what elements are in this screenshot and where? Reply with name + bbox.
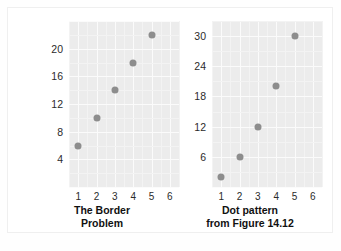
gridline-vertical — [295, 21, 296, 187]
gridline-horizontal — [69, 21, 179, 22]
data-point — [236, 153, 243, 160]
x-axis-tick-label: 2 — [94, 191, 100, 202]
gridline-vertical — [240, 21, 241, 187]
gridline-vertical — [249, 21, 250, 187]
y-axis-tick-label: 24 — [194, 60, 206, 72]
figure-border: 48121620123456 The Border Problem 612182… — [7, 7, 333, 233]
data-point — [148, 31, 155, 38]
data-point — [218, 173, 225, 180]
gridline-vertical — [267, 21, 268, 187]
gridline-horizontal — [212, 21, 322, 22]
gridline-horizontal — [212, 112, 322, 113]
gridline-horizontal — [212, 187, 322, 188]
chart-panel-dot-pattern: 612182430123456 Dot pattern from Figure … — [170, 8, 330, 234]
x-axis-tick-label: 4 — [273, 191, 279, 202]
x-axis-tick-label: 6 — [310, 191, 316, 202]
y-axis-tick-label: 6 — [200, 151, 206, 163]
gridline-horizontal — [212, 66, 322, 67]
gridline-vertical — [258, 21, 259, 187]
gridline-horizontal — [69, 49, 179, 50]
caption-line-1: The Border — [22, 204, 182, 217]
gridline-vertical — [285, 21, 286, 187]
gridline-horizontal — [212, 142, 322, 143]
gridline-horizontal — [69, 118, 179, 119]
data-point — [130, 59, 137, 66]
x-axis-tick-label: 1 — [75, 191, 81, 202]
gridline-horizontal — [69, 159, 179, 160]
data-point — [254, 123, 261, 130]
y-axis-tick-label: 4 — [57, 153, 63, 165]
gridline-vertical — [212, 21, 213, 187]
y-axis-tick-label: 12 — [51, 98, 63, 110]
y-axis-tick-label: 8 — [57, 126, 63, 138]
x-axis-tick-label: 3 — [112, 191, 118, 202]
gridline-horizontal — [69, 35, 179, 36]
gridline-horizontal — [69, 187, 179, 188]
gridline-vertical — [304, 21, 305, 187]
gridline-horizontal — [212, 36, 322, 37]
x-axis-tick-label: 1 — [218, 191, 224, 202]
gridline-horizontal — [69, 146, 179, 147]
gridline-horizontal — [69, 90, 179, 91]
y-axis-tick-label: 12 — [194, 121, 206, 133]
data-point — [291, 33, 298, 40]
data-point — [273, 83, 280, 90]
gridline-vertical — [276, 21, 277, 187]
gridline-horizontal — [212, 157, 322, 158]
y-axis-tick-label: 30 — [194, 30, 206, 42]
gridline-vertical — [230, 21, 231, 187]
chart-caption-dot-pattern: Dot pattern from Figure 14.12 — [170, 204, 330, 230]
data-point — [111, 87, 118, 94]
chart-caption-border-problem: The Border Problem — [22, 204, 182, 230]
gridline-horizontal — [212, 96, 322, 97]
figure-root: 48121620123456 The Border Problem 612182… — [0, 0, 341, 251]
gridline-horizontal — [69, 104, 179, 105]
data-point — [75, 142, 82, 149]
caption-line-2: Problem — [22, 217, 182, 230]
y-axis-tick-label: 18 — [194, 90, 206, 102]
gridline-horizontal — [212, 127, 322, 128]
gridline-horizontal — [212, 81, 322, 82]
x-axis-tick-label: 5 — [292, 191, 298, 202]
chart-panel-border-problem: 48121620123456 The Border Problem — [22, 8, 182, 234]
gridline-horizontal — [69, 76, 179, 77]
gridline-vertical — [322, 21, 323, 187]
y-axis-tick-label: 16 — [51, 70, 63, 82]
plot-area-border-problem: 48121620123456 — [69, 21, 179, 187]
x-axis-tick-label: 3 — [255, 191, 261, 202]
gridline-horizontal — [69, 63, 179, 64]
gridline-vertical — [313, 21, 314, 187]
y-axis-tick-label: 20 — [51, 43, 63, 55]
caption-line-2: from Figure 14.12 — [170, 217, 330, 230]
x-axis-tick-label: 2 — [237, 191, 243, 202]
x-axis-tick-label: 4 — [130, 191, 136, 202]
gridline-vertical — [221, 21, 222, 187]
gridline-horizontal — [212, 51, 322, 52]
gridline-horizontal — [69, 173, 179, 174]
plot-area-dot-pattern: 612182430123456 — [212, 21, 322, 187]
gridline-horizontal — [212, 172, 322, 173]
gridline-horizontal — [69, 132, 179, 133]
x-axis-tick-label: 5 — [149, 191, 155, 202]
data-point — [93, 114, 100, 121]
caption-line-1: Dot pattern — [170, 204, 330, 217]
